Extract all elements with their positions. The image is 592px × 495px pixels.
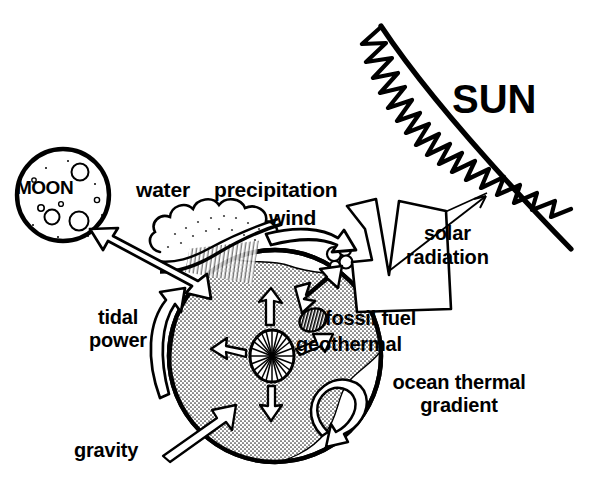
label-solar-radiation-line2: radiation — [406, 246, 489, 270]
label-tidal-power-line2: power — [74, 329, 162, 352]
label-water: water — [136, 179, 190, 201]
label-ocean-thermal-gradient: ocean thermal gradient — [390, 371, 528, 417]
diagram-canvas: SUN MOON water precipitation wind solar … — [0, 0, 592, 495]
label-precipitation: precipitation — [214, 179, 337, 201]
label-ocean-thermal-line1: ocean thermal — [390, 371, 528, 394]
label-geothermal: geothermal — [296, 334, 402, 355]
sun-flames — [362, 27, 571, 217]
label-ocean-thermal-line2: gradient — [390, 394, 528, 417]
label-gravity: gravity — [74, 440, 138, 461]
diagram-artwork — [0, 0, 592, 495]
label-solar-radiation-line1: solar — [406, 222, 489, 246]
sun-icon — [362, 26, 571, 249]
label-tidal-power-line1: tidal — [74, 306, 162, 329]
label-solar-radiation: solar radiation — [406, 222, 489, 269]
label-tidal-power: tidal power — [74, 306, 162, 352]
label-sun: SUN — [452, 78, 536, 120]
label-wind: wind — [269, 207, 316, 229]
label-fossil-fuel: fossil fuel — [325, 308, 416, 329]
label-moon: MOON — [16, 178, 73, 198]
